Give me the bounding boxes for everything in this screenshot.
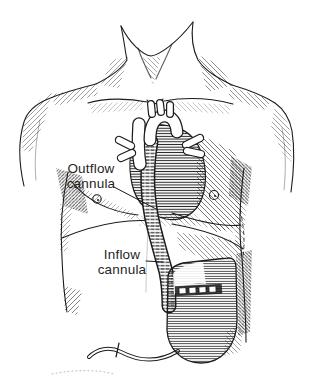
outflow-label-line2: cannula: [57, 177, 125, 192]
driveline-cable: [89, 343, 178, 359]
inflow-label-line2: cannula: [90, 263, 154, 278]
outflow-label-line1: Outflow: [57, 162, 125, 177]
inflow-label-line1: Inflow: [90, 248, 154, 263]
medical-illustration-page: Outflow cannula Inflow cannula: [0, 0, 315, 380]
outflow-cannula-label: Outflow cannula: [57, 162, 125, 191]
torso-line-drawing: [0, 0, 315, 380]
inflow-cannula-label: Inflow cannula: [90, 248, 154, 277]
pump-device: [167, 258, 237, 363]
